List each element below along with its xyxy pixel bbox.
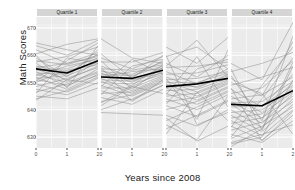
x-tick-label: 0 (35, 151, 38, 157)
x-tick-label: 1 (261, 151, 264, 157)
x-axis: 012 (231, 148, 293, 158)
x-axis: 012 (36, 148, 98, 158)
facet-strip-label: Quartile 3 (166, 8, 228, 17)
x-axis: 012 (101, 148, 163, 158)
x-tick-label: 0 (230, 151, 233, 157)
y-tick-label: 660 (10, 52, 36, 58)
facet-panel-1: Quartile 1012 (36, 8, 98, 158)
x-tick-label: 1 (131, 151, 134, 157)
plot-area (231, 17, 293, 148)
facet-strip-label: Quartile 2 (101, 8, 163, 17)
x-tick-label: 1 (66, 151, 69, 157)
facet-panel-4: Quartile 4012 (231, 8, 293, 158)
y-tick-label: 640 (10, 107, 36, 113)
facet-strip-label: Quartile 1 (36, 8, 98, 17)
x-tick-label: 1 (196, 151, 199, 157)
x-tick-label: 2 (292, 151, 295, 157)
plot-area (166, 17, 228, 148)
plot-area (101, 17, 163, 148)
facet-panel-3: Quartile 3012 (166, 8, 228, 158)
x-axis-title: Years since 2008 (30, 172, 295, 183)
facet-strip-label: Quartile 4 (231, 8, 293, 17)
y-tick-label: 670 (10, 25, 36, 31)
plot-area (36, 17, 98, 148)
x-axis: 012 (166, 148, 228, 158)
chart-root: Math Scores 630640650660670 Quartile 101… (0, 0, 295, 190)
x-tick-label: 0 (165, 151, 168, 157)
facet-panel-row: Quartile 1012Quartile 2012Quartile 3012Q… (36, 8, 293, 158)
x-tick-label: 0 (100, 151, 103, 157)
y-tick-label: 650 (10, 80, 36, 86)
facet-panel-2: Quartile 2012 (101, 8, 163, 158)
y-axis: 630640650660670 (4, 0, 36, 190)
y-tick-label: 630 (10, 134, 36, 140)
